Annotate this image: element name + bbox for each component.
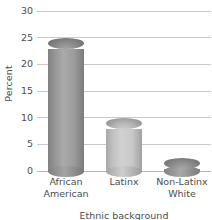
- x-axis-title: Ethnic background: [37, 210, 211, 220]
- y-axis-tick-label: 15: [7, 86, 33, 96]
- y-axis-tick-label: 0: [7, 166, 33, 176]
- bar-top-cap: [164, 158, 200, 169]
- y-axis-tick-label: 25: [7, 33, 33, 43]
- gridline: [37, 11, 211, 12]
- bar-bottom-cap: [106, 166, 142, 177]
- y-axis-tick-label: 30: [7, 6, 33, 16]
- y-axis-tick-label: 20: [7, 59, 33, 69]
- bar: [48, 43, 84, 171]
- bar: [164, 163, 200, 171]
- x-axis-tick-label-line: Non-Latinx: [137, 176, 212, 188]
- bar-shaft: [106, 129, 142, 172]
- plot-area: 051015202530: [37, 11, 211, 171]
- x-axis-tick-label-line: American: [21, 188, 111, 200]
- bar-bottom-cap: [48, 166, 84, 177]
- y-axis-tick-label: 10: [7, 113, 33, 123]
- y-axis-tick-label: 5: [7, 139, 33, 149]
- bar-shaft: [48, 49, 84, 172]
- x-axis-tick-label: Non-LatinxWhite: [137, 176, 212, 199]
- bar-chart: Percent 051015202530 Ethnic background A…: [0, 0, 212, 220]
- x-axis-tick-label-line: White: [137, 188, 212, 200]
- bar-top-cap: [48, 38, 84, 49]
- bar: [106, 123, 142, 171]
- bar-top-cap: [106, 118, 142, 129]
